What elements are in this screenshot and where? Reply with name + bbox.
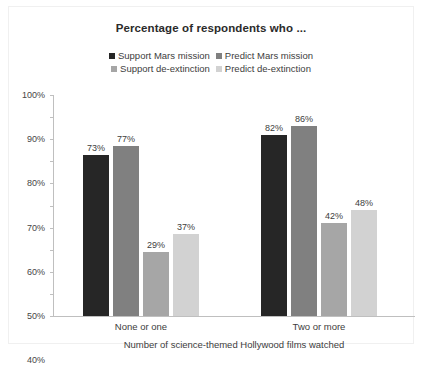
bar[interactable]	[173, 234, 199, 316]
bar-group-item[interactable]: 29%	[143, 252, 169, 316]
y-axis-tick-label: 80%	[27, 178, 45, 188]
bar-group-item[interactable]: 37%	[173, 234, 199, 316]
x-axis-title: Number of science-themed Hollywood films…	[53, 339, 415, 350]
x-axis-line	[53, 316, 415, 317]
category-label: None or one	[115, 321, 167, 332]
bar-group-item[interactable]: 86%	[291, 126, 317, 316]
plot-area: 0%10%20%30%40%50%60%70%80%90%100% 73%77%…	[53, 95, 415, 317]
bar-value-label: 86%	[295, 114, 313, 124]
legend-item-predict-de-extinction[interactable]: Predict de-extinction	[216, 63, 311, 74]
chart-title: Percentage of respondents who ...	[9, 22, 413, 34]
bar-value-label: 42%	[325, 211, 343, 221]
legend-label-predict-de-extinction: Predict de-extinction	[225, 63, 311, 74]
legend-item-predict-mars-mission[interactable]: Predict Mars mission	[216, 50, 313, 61]
y-axis-tick-label: 100%	[22, 90, 45, 100]
legend-label-predict-mars-mission: Predict Mars mission	[225, 50, 313, 61]
bar-group-item[interactable]: 77%	[113, 146, 139, 316]
bar[interactable]	[143, 252, 169, 316]
bar[interactable]	[291, 126, 317, 316]
y-axis-tick-label: 50%	[27, 311, 45, 321]
bar-value-label: 37%	[177, 222, 195, 232]
bar-value-label: 48%	[355, 198, 373, 208]
bar-group-item[interactable]: 82%	[261, 135, 287, 316]
bar-value-label: 29%	[147, 240, 165, 250]
bar-group-item[interactable]: 48%	[351, 210, 377, 316]
bar-group-item[interactable]: 73%	[83, 155, 109, 316]
bar-group-item[interactable]: 42%	[321, 223, 347, 316]
legend-swatch-predict-mars-mission	[216, 53, 222, 59]
bar[interactable]	[261, 135, 287, 316]
y-axis-tick-label: 90%	[27, 134, 45, 144]
chart-container: Percentage of respondents who ... Suppor…	[8, 6, 414, 344]
legend-swatch-predict-de-extinction	[216, 66, 222, 72]
bar-value-label: 77%	[117, 134, 135, 144]
legend-swatch-support-de-extinction	[111, 66, 117, 72]
y-axis-tick: 0%	[50, 316, 53, 317]
bar[interactable]	[351, 210, 377, 316]
legend-swatch-support-mars-mission	[109, 53, 115, 59]
bar-value-label: 73%	[87, 143, 105, 153]
bar[interactable]	[113, 146, 139, 316]
legend-item-support-mars-mission[interactable]: Support Mars mission	[109, 50, 210, 61]
chart-legend: Support Mars mission Predict Mars missio…	[9, 49, 413, 75]
legend-item-support-de-extinction[interactable]: Support de-extinction	[111, 63, 210, 74]
bar-value-label: 82%	[265, 123, 283, 133]
y-axis-tick-label: 60%	[27, 267, 45, 277]
bar[interactable]	[321, 223, 347, 316]
bar[interactable]	[83, 155, 109, 316]
category-label: Two or more	[293, 321, 346, 332]
legend-label-support-de-extinction: Support de-extinction	[120, 63, 210, 74]
legend-label-support-mars-mission: Support Mars mission	[118, 50, 210, 61]
legend-row-2: Support de-extinction Predict de-extinct…	[9, 62, 413, 75]
y-axis-tick-label: 40%	[27, 355, 45, 365]
bars-layer: 73%77%29%37%82%86%42%48%	[53, 95, 415, 316]
legend-row-1: Support Mars mission Predict Mars missio…	[9, 49, 413, 62]
y-axis-tick-label: 70%	[27, 223, 45, 233]
